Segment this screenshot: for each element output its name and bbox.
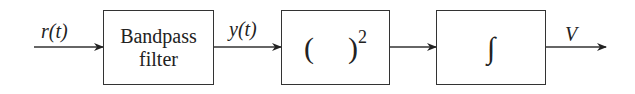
bandpass-label-line1: Bandpass xyxy=(120,25,197,48)
input-signal-label: r(t) xyxy=(41,21,68,41)
intermediate-signal-label: y(t) xyxy=(229,19,257,39)
integral-icon: ∫ xyxy=(487,31,495,65)
integrator-block: ∫ xyxy=(436,10,546,85)
open-paren: ( xyxy=(304,31,314,64)
squarer-expression: ()2 xyxy=(304,31,367,65)
exponent: 2 xyxy=(358,27,367,47)
output-signal-label: V xyxy=(565,24,577,44)
bandpass-filter-text: Bandpass filter xyxy=(120,25,197,71)
squarer-block: ()2 xyxy=(281,10,390,85)
bandpass-filter-block: Bandpass filter xyxy=(103,10,214,85)
close-paren: ) xyxy=(348,31,358,64)
bandpass-label-line2: filter xyxy=(120,48,197,71)
